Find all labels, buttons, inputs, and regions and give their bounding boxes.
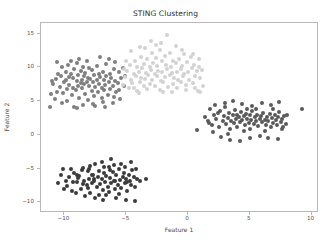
- data-point: [137, 70, 141, 74]
- data-point: [163, 75, 167, 79]
- data-point: [223, 101, 227, 105]
- data-point: [117, 192, 121, 196]
- data-point: [143, 46, 147, 50]
- data-point: [154, 56, 158, 60]
- data-point: [193, 86, 197, 90]
- data-point: [93, 196, 97, 200]
- data-point: [153, 84, 157, 88]
- data-point: [72, 67, 76, 71]
- data-point: [219, 135, 223, 139]
- data-point: [65, 87, 69, 91]
- data-point: [145, 87, 149, 91]
- data-point: [102, 78, 106, 82]
- data-point: [180, 64, 184, 68]
- data-point: [285, 113, 289, 117]
- data-point: [235, 125, 239, 129]
- chart-title: STING Clustering: [0, 9, 331, 18]
- data-point: [184, 88, 188, 92]
- data-point: [53, 97, 57, 101]
- data-point: [59, 74, 63, 78]
- data-point: [245, 107, 249, 111]
- data-point: [226, 132, 230, 136]
- data-point: [116, 81, 120, 85]
- data-point: [122, 171, 126, 175]
- y-tick-mark: [37, 201, 40, 202]
- data-point: [233, 108, 237, 112]
- data-point: [86, 98, 90, 102]
- data-point: [124, 59, 128, 63]
- data-point: [85, 59, 89, 63]
- data-point: [118, 97, 122, 101]
- data-point: [87, 84, 91, 88]
- data-point: [145, 57, 149, 61]
- data-point: [138, 179, 142, 183]
- data-point: [161, 80, 165, 84]
- data-point: [98, 182, 102, 186]
- data-point: [93, 104, 97, 108]
- data-point: [148, 82, 152, 86]
- data-point: [177, 57, 181, 61]
- data-point: [198, 90, 202, 94]
- data-point: [248, 113, 252, 117]
- data-point: [77, 96, 81, 100]
- data-point: [228, 138, 232, 142]
- data-point: [108, 72, 112, 76]
- data-point: [101, 198, 105, 202]
- data-point: [128, 63, 132, 67]
- data-point: [111, 101, 115, 105]
- data-point: [83, 194, 87, 198]
- y-tick-mark: [37, 134, 40, 135]
- plot-area: [40, 22, 318, 212]
- data-point: [106, 185, 110, 189]
- data-point: [203, 115, 207, 119]
- data-point: [133, 185, 137, 189]
- data-point: [67, 175, 71, 179]
- data-point: [92, 94, 96, 98]
- data-point: [56, 181, 60, 185]
- data-point: [98, 55, 102, 59]
- data-point: [174, 44, 178, 48]
- data-point: [144, 177, 148, 181]
- data-point: [160, 70, 164, 74]
- data-point: [66, 63, 70, 67]
- data-point: [207, 121, 211, 125]
- data-point: [92, 177, 96, 181]
- data-point: [258, 134, 262, 138]
- x-tick-label: −5: [121, 215, 129, 221]
- data-point: [112, 95, 116, 99]
- data-point: [58, 85, 62, 89]
- data-point: [75, 180, 79, 184]
- data-point: [71, 180, 75, 184]
- data-point: [165, 33, 169, 37]
- data-point: [75, 173, 79, 177]
- x-tick-label: 10: [307, 215, 314, 221]
- data-point: [191, 52, 195, 56]
- data-point: [186, 70, 190, 74]
- data-point: [104, 62, 108, 66]
- data-point: [93, 85, 97, 89]
- data-point: [107, 190, 111, 194]
- data-point: [138, 80, 142, 84]
- data-point: [179, 80, 183, 84]
- data-point: [256, 124, 260, 128]
- data-point: [180, 48, 184, 52]
- data-point: [269, 125, 273, 129]
- data-point: [117, 167, 121, 171]
- data-point: [228, 127, 232, 131]
- data-point: [90, 89, 94, 93]
- data-point: [171, 82, 175, 86]
- data-point: [61, 167, 65, 171]
- data-point: [240, 102, 244, 106]
- data-point: [195, 128, 199, 132]
- data-point: [198, 76, 202, 80]
- data-point: [64, 70, 68, 74]
- data-point: [154, 43, 158, 47]
- data-point: [103, 180, 107, 184]
- data-point: [117, 88, 121, 92]
- x-tick-label: −10: [58, 215, 70, 221]
- data-point: [277, 100, 281, 104]
- data-point: [106, 93, 110, 97]
- data-point: [77, 57, 81, 61]
- data-point: [64, 179, 68, 183]
- data-point: [74, 88, 78, 92]
